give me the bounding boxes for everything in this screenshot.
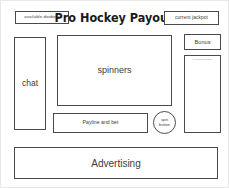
- current-jackpot-display: current jackpot: [164, 11, 219, 25]
- spin-button-label-line2: button: [159, 123, 170, 128]
- bonus-button[interactable]: Bonus: [184, 34, 221, 50]
- page-title: Pro Hockey Payout: [75, 9, 152, 26]
- recent-winners-label: recent winners: [193, 59, 212, 62]
- advertising-banner[interactable]: Advertising: [14, 147, 218, 179]
- wireframe-canvas: available doobers Pro Hockey Payout curr…: [0, 0, 229, 188]
- spin-button[interactable]: spin button: [153, 111, 176, 134]
- chat-panel[interactable]: chat: [14, 37, 46, 130]
- spinners-reel-area[interactable]: spinners: [57, 35, 172, 106]
- payline-and-bet-controls[interactable]: Payline and bet: [53, 113, 148, 133]
- recent-winners-panel[interactable]: recent winners: [184, 55, 221, 133]
